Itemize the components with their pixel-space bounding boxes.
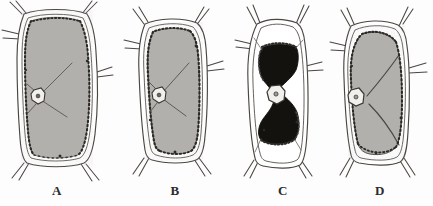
cell-d-nucleus: [348, 88, 364, 106]
cell-plate-illustration: [0, 0, 433, 206]
cell-label-a: A: [45, 183, 69, 199]
cell-d-nucleolus: [354, 95, 358, 99]
cell-a-nucleolus: [36, 94, 40, 98]
cell-label-c: C: [271, 183, 295, 199]
cell-a-protoplast: [25, 17, 89, 158]
cell-label-b: B: [163, 183, 187, 199]
cell-c-nucleolus: [274, 92, 278, 96]
cell-label-d: D: [368, 183, 392, 199]
cell-b-nucleolus: [157, 93, 161, 97]
figure-plate: A B C D: [0, 0, 433, 206]
